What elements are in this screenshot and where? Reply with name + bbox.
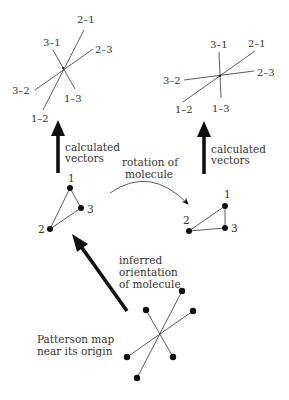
patterson-peak [190,308,196,314]
inferred-label: inferred [119,254,162,266]
label-2-1: 2–1 [77,14,95,25]
atom-3-label: 3 [231,222,238,234]
atom-2-label: 2 [183,214,190,226]
origin-point [62,67,64,69]
label-3-1: 3–1 [210,39,228,50]
patterson-orientation-diagram: 2–1 2–3 3–1 3–2 1–3 1–2 3–1 2–1 2–3 3–2 … [0,0,289,400]
of-molecule-label: of molecule [119,278,181,290]
curved-arrow-icon [110,181,188,204]
inferred-orientation-arrow: inferred orientation of molecule [72,234,181,311]
right-molecule: 1 3 2 [183,188,238,234]
left-vector-star: 2–1 2–3 3–1 3–2 1–3 1–2 [12,14,113,124]
molecule-bonds [189,206,225,231]
label-1-3: 1–3 [64,93,82,104]
patterson-peak [143,307,149,313]
label-1-2: 1–2 [31,113,49,124]
rotation-of-label: rotation of [122,156,179,168]
label-3-2: 3–2 [12,85,30,96]
patterson-peak [134,375,140,381]
vectors-label: vectors [64,152,104,164]
vectors-label: vectors [210,154,250,166]
orientation-label: orientation [119,266,178,278]
label-3-2: 3–2 [163,75,181,86]
left-calculated-vectors-arrow: calculated vectors [51,120,120,173]
molecule-bonds [50,188,81,229]
atom-1 [67,185,73,191]
label-2-3: 2–3 [95,44,113,55]
near-origin-label: near its origin [37,345,113,357]
right-calculated-vectors-arrow: calculated vectors [197,121,266,174]
atom-3 [222,225,228,231]
label-2-3: 2–3 [257,67,275,78]
right-vector-star: 3–1 2–1 2–3 3–2 1–2 1–3 [163,38,275,115]
molecule-label: molecule [125,168,173,180]
arrow-head-icon [197,121,211,137]
label-1-3: 1–3 [212,103,230,114]
label-3-1: 3–1 [43,37,61,48]
patterson-peak [179,288,185,294]
atom-3 [78,205,84,211]
vector-line-2-3 [184,71,254,80]
arrow-head-icon [72,234,88,252]
atom-2 [47,226,53,232]
label-1-2: 1–2 [175,104,193,115]
atom-2-label: 2 [38,223,45,235]
rotation-arrow: rotation of molecule [110,156,188,204]
patterson-map-label: Patterson map [37,333,115,345]
origin-point [219,75,221,77]
vector-line-3-1 [53,50,75,89]
arrow-head-icon [51,120,65,136]
label-2-1: 2–1 [248,38,266,49]
patterson-map-star: Patterson map near its origin [37,288,196,381]
atom-1-label: 1 [68,172,75,184]
atom-1 [222,203,228,209]
atom-3-label: 3 [87,203,94,215]
patterson-peak [170,354,176,360]
patterson-peak [124,354,130,360]
atom-2 [186,228,192,234]
left-molecule: 1 3 2 [38,172,94,235]
atom-1-label: 1 [224,188,231,200]
